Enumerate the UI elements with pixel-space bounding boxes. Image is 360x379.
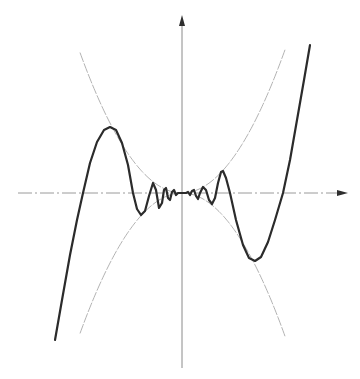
x-axis-arrow-icon bbox=[337, 190, 348, 196]
y-axis-arrow-icon bbox=[179, 15, 185, 26]
function-plot bbox=[0, 0, 360, 379]
